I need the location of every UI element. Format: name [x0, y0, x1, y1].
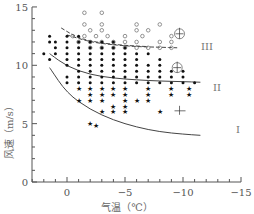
open-circle-point [158, 46, 162, 50]
dot-point [135, 52, 138, 55]
dot-point [193, 81, 196, 84]
star-point: ★ [76, 97, 82, 105]
star-point: ★ [76, 85, 82, 93]
y-tick-labels: 051015 [15, 2, 28, 188]
dot-point [158, 64, 161, 67]
star-point: ★ [110, 91, 116, 99]
open-circle-point [94, 34, 98, 38]
open-circle-point [135, 28, 139, 32]
dot-point [158, 75, 161, 78]
dot-point [112, 46, 115, 49]
dot-point [147, 64, 150, 67]
dot-point [66, 35, 69, 38]
dot-point [89, 40, 92, 43]
star-point: ★ [186, 91, 192, 99]
dot-point [77, 70, 80, 73]
dot-point [135, 70, 138, 73]
dot-point [124, 81, 127, 84]
star-point: ★ [145, 97, 151, 105]
dot-point [147, 52, 150, 55]
open-circle-point [106, 34, 110, 38]
open-circle-point [135, 40, 139, 44]
dot-point [100, 64, 103, 67]
open-circle-point [100, 23, 104, 27]
wind-symbol-cross-icon [175, 106, 186, 115]
dot-point [147, 70, 150, 73]
dot-point [135, 75, 138, 78]
dot-point [66, 52, 69, 55]
open-circle-point [146, 28, 150, 32]
open-circle-point [170, 34, 174, 38]
dot-point [66, 46, 69, 49]
dot-point [124, 64, 127, 67]
dot-point [124, 46, 127, 49]
dot-point [66, 75, 69, 78]
dot-point [158, 58, 161, 61]
dot-point [112, 70, 115, 73]
x-axis [32, 177, 241, 182]
dot-point [182, 75, 185, 78]
dot-point [89, 81, 92, 84]
open-circle-point [141, 34, 145, 38]
dot-point [112, 40, 115, 43]
dot-point [124, 52, 127, 55]
dot-point [100, 46, 103, 49]
y-axis [32, 7, 37, 182]
dot-point [89, 52, 92, 55]
open-circle-point [83, 23, 87, 27]
dot-point [77, 81, 80, 84]
star-point: ★ [93, 122, 99, 130]
open-circle-point [83, 34, 87, 38]
dot-point [124, 70, 127, 73]
x-tick-label: −5 [118, 187, 133, 198]
dot-point [112, 58, 115, 61]
open-circle-point [123, 34, 127, 38]
dot-point [100, 40, 103, 43]
curve-label-I: I [236, 124, 240, 135]
curve-label-III: III [201, 41, 213, 52]
open-circle-point [123, 40, 127, 44]
x-axis-title: 气温（℃） [101, 201, 152, 213]
y-tick-label: 5 [22, 119, 28, 130]
dot-point [124, 75, 127, 78]
y-tick-label: 0 [22, 177, 28, 188]
dot-point [77, 58, 80, 61]
dot-point [77, 75, 80, 78]
star-point: ★ [134, 97, 140, 105]
dot-point [158, 81, 161, 84]
dot-point [124, 58, 127, 61]
dot-point [89, 75, 92, 78]
dot-point [135, 81, 138, 84]
dot-point [66, 81, 69, 84]
dot-point [54, 52, 57, 55]
dot-point [89, 58, 92, 61]
dot-point [77, 40, 80, 43]
star-point: ★ [99, 108, 105, 116]
dot-point [89, 70, 92, 73]
star-point: ★ [122, 108, 128, 116]
dot-point [135, 58, 138, 61]
y-tick-label: 15 [15, 2, 28, 13]
dot-point [48, 40, 51, 43]
dot-point [112, 64, 115, 67]
dot-point [182, 81, 185, 84]
x-tick-label: −15 [230, 187, 251, 198]
dot-point [112, 75, 115, 78]
y-axis-title: 风速（m/s） [4, 101, 15, 159]
dot-point [77, 64, 80, 67]
y-tick-label: 10 [15, 60, 28, 71]
dot-point [54, 46, 57, 49]
x-tick-label: −10 [172, 187, 193, 198]
open-circle-point [100, 11, 104, 15]
dot-point [48, 58, 51, 61]
dot-point [100, 81, 103, 84]
star-point: ★ [99, 97, 105, 105]
curve-labels: IIIIII [201, 41, 240, 135]
dot-point [66, 40, 69, 43]
open-circle-point [100, 28, 104, 32]
star-point: ★ [157, 108, 163, 116]
star-point: ★ [168, 91, 174, 99]
dot-point [77, 52, 80, 55]
open-circle-point [158, 23, 162, 27]
dot-point [112, 52, 115, 55]
